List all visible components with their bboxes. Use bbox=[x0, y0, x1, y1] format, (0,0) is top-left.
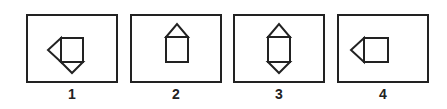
option-3-panel[interactable] bbox=[233, 14, 325, 83]
square-top-triangle-icon bbox=[132, 16, 220, 81]
square-left-triangle-icon bbox=[339, 16, 427, 81]
option-4-label: 4 bbox=[337, 86, 429, 102]
option-2-panel[interactable] bbox=[130, 14, 222, 83]
option-3-label: 3 bbox=[233, 86, 325, 102]
option-1-panel[interactable] bbox=[26, 14, 118, 83]
option-2-label: 2 bbox=[130, 86, 222, 102]
square-left-bottom-triangle-icon bbox=[28, 16, 116, 81]
option-1-label: 1 bbox=[26, 86, 118, 102]
square-top-bottom-triangles-icon bbox=[235, 16, 323, 81]
option-4-panel[interactable] bbox=[337, 14, 429, 83]
